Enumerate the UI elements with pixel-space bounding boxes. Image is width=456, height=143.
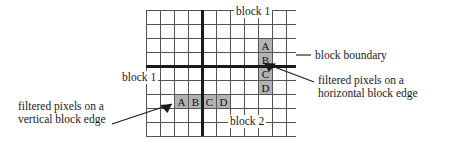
label-filtered-pixels-vertical-edge: filtered pixels on a vertical block edge <box>16 100 108 126</box>
label-filtered-horizontal-line-1: filtered pixels on a <box>318 74 404 86</box>
label-block-1-left: block 1 <box>120 71 158 84</box>
block-boundary-lines <box>146 10 296 136</box>
block-boundary-diagram: A B C D A B C D block 1 block 1 block 2 … <box>0 0 456 143</box>
pixel-grid <box>146 10 296 137</box>
label-block-2: block 2 <box>228 115 266 128</box>
label-block-1-top: block 1 <box>234 5 272 18</box>
label-block-boundary: block boundary <box>313 49 389 62</box>
label-filtered-vertical-line-2: vertical block edge <box>18 113 106 125</box>
label-filtered-pixels-horizontal-edge: filtered pixels on a horizontal block ed… <box>316 74 420 100</box>
label-filtered-vertical-line-1: filtered pixels on a <box>18 100 104 112</box>
label-filtered-horizontal-line-2: horizontal block edge <box>318 87 418 99</box>
